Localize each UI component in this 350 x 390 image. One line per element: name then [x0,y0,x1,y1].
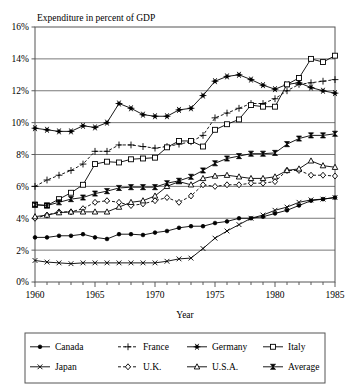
legend-marker-open-square-icon [271,344,276,349]
legend-label: U.S.A. [212,362,238,372]
data-point-marker-open-square [141,156,146,161]
data-point-marker-filled-circle [105,237,109,241]
data-point-marker-open-square [153,155,158,160]
data-point-marker-open-square [69,190,74,195]
data-point-marker-open-square [177,138,182,143]
data-point-marker-open-square [309,56,314,61]
data-point-marker-filled-circle [33,236,37,240]
data-point-marker-open-square [285,82,290,87]
data-point-marker-open-square [105,159,110,164]
y-tick-label: 4% [16,214,29,224]
data-point-marker-open-square [297,76,302,81]
legend-label: Germany [212,342,248,352]
data-point-marker-open-square [273,104,278,109]
data-point-marker-filled-circle [117,232,121,236]
chart-title: Expenditure in percent of GDP [37,13,155,23]
x-tick-label: 1985 [326,290,345,300]
data-point-marker-open-square [129,157,134,162]
y-tick-label: 12% [12,86,30,96]
chart-figure: Expenditure in percent of GDP 0%2%4%6%8%… [0,0,350,390]
data-point-marker-open-square [213,127,218,132]
data-point-marker-filled-circle [201,224,205,228]
legend-label: France [143,342,169,352]
data-point-marker-open-square [333,53,338,58]
data-point-marker-open-square [201,144,206,149]
x-axis-label: Year [176,310,194,320]
data-point-marker-open-square [81,182,86,187]
data-point-marker-filled-circle [141,233,145,237]
data-point-marker-filled-circle [57,234,61,238]
data-point-marker-open-square [261,104,266,109]
data-point-marker-filled-circle [129,232,133,236]
y-tick-label: 14% [12,54,30,64]
legend-label: Japan [55,362,77,372]
expenditure-line-chart: Expenditure in percent of GDP 0%2%4%6%8%… [0,0,350,390]
data-point-marker-open-square [117,160,122,165]
data-point-marker-open-square [225,122,230,127]
data-point-marker-filled-circle [189,224,193,228]
data-point-marker-open-square [237,117,242,122]
data-point-marker-open-square [249,103,254,108]
data-point-marker-filled-circle [93,236,97,240]
y-tick-label: 10% [12,118,30,128]
y-tick-label: 8% [16,150,29,160]
legend-label: U.K. [143,362,161,372]
data-point-marker-filled-circle [237,216,241,220]
legend-label: Italy [288,342,306,352]
y-tick-label: 16% [12,22,30,32]
data-point-marker-filled-circle [225,220,229,224]
data-point-marker-filled-circle [153,231,157,235]
x-tick-label: 1980 [266,290,285,300]
legend-marker-filled-circle-icon [38,345,42,349]
data-point-marker-open-square [165,145,170,150]
y-tick-label: 6% [16,182,29,192]
legend-label: Average [288,362,319,372]
data-point-marker-open-square [189,138,194,143]
x-tick-label: 1960 [26,290,45,300]
x-tick-label: 1975 [206,290,225,300]
x-tick-label: 1970 [146,290,165,300]
data-point-marker-filled-circle [69,234,73,238]
data-point-marker-filled-circle [81,232,85,236]
x-tick-label: 1965 [86,290,105,300]
legend-label: Canada [55,342,84,352]
data-point-marker-filled-circle [213,221,217,225]
data-point-marker-filled-circle [165,229,169,233]
y-tick-label: 2% [16,246,29,256]
data-point-marker-open-square [93,162,98,167]
data-point-marker-filled-circle [45,236,49,240]
data-point-marker-filled-circle [177,226,181,230]
data-point-marker-open-square [321,60,326,65]
y-tick-label: 0% [16,277,29,287]
